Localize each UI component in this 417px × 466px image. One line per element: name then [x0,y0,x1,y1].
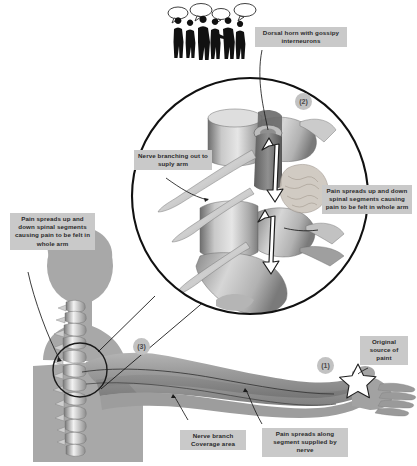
callout-nerve-branch-coverage: Nerve branch Coverage area [180,430,246,450]
callout-pain-spreads-right: Pain spreads up and down spinal segments… [322,185,412,214]
marker-step-3: (3) [133,338,150,355]
marker-step-1: (1) [317,357,334,374]
callout-dorsal-horn: Dorsal horn with gossipy interneurons [255,27,347,47]
crowd-silhouette-icon [168,4,256,61]
callout-original-source: Original source of paint [360,336,408,365]
marker-step-2: (2) [295,93,312,110]
diagram-canvas: Dorsal horn with gossipy interneurons Ne… [0,0,417,466]
callout-nerve-branching: Nerve branching out to suply arm [134,150,212,170]
callout-pain-spreads-left: Pain spreads up and down spinal segments… [10,213,95,250]
callout-pain-along-segment: Pain spreads along segment supplied by n… [262,428,348,457]
